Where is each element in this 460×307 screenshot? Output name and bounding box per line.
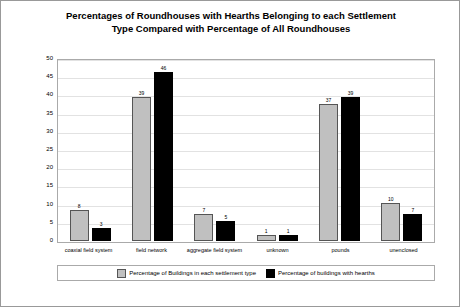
plot-frame: 83394675113739107 [57,59,435,243]
bar: 5 [216,221,235,241]
bar-value-label: 46 [161,65,167,71]
bar-value-label: 8 [78,203,81,209]
x-tick-label: unknown [246,247,309,253]
chart-title-line-1: Percentages of Roundhouses with Hearths … [1,9,460,22]
bar: 46 [154,72,173,241]
bar-value-label: 39 [139,90,145,96]
y-tick-label: 45 [35,73,53,79]
bar: 10 [381,203,400,241]
legend-item-1: Percentage of buildings with hearths [266,269,375,278]
bar: 7 [403,214,422,241]
bar: 7 [194,214,213,241]
y-tick-label: 10 [35,201,53,207]
bar-group: 75 [184,61,246,241]
bar-value-label: 5 [224,214,227,220]
bar-value-label: 7 [202,207,205,213]
chart-title: Percentages of Roundhouses with Hearths … [1,9,460,35]
y-tick-label: 0 [35,237,53,243]
bar: 8 [70,210,89,241]
x-tick-label: pounds [309,247,372,253]
x-tick-label: aggregate field system [183,247,246,253]
y-tick-label: 20 [35,164,53,170]
legend-label-1: Percentage of buildings with hearths [278,270,375,276]
bar-group: 11 [246,61,308,241]
y-tick-label: 5 [35,219,53,225]
bar: 1 [257,235,276,241]
bar-group: 3946 [121,61,183,241]
legend-item-0: Percentage of Buildings in each settleme… [117,269,256,278]
plot-area: 05101520253035404550 83394675113739107 c… [57,59,435,243]
bar: 39 [132,97,151,241]
bar: 39 [341,97,360,241]
bar-value-label: 10 [388,196,394,202]
bar-value-label: 39 [348,90,354,96]
chart-figure: Percentages of Roundhouses with Hearths … [0,0,460,307]
bar: 3 [92,228,111,241]
x-tick-label: unenclosed [372,247,435,253]
bar-value-label: 1 [287,228,290,234]
bar-group: 107 [371,61,433,241]
y-tick-label: 15 [35,182,53,188]
bar-value-label: 7 [411,207,414,213]
bar: 37 [319,104,338,241]
bar: 1 [279,235,298,241]
x-tick-label: coaxial field system [57,247,120,253]
legend-label-0: Percentage of Buildings in each settleme… [129,270,256,276]
chart-legend: Percentage of Buildings in each settleme… [57,265,435,281]
bar-group: 83 [59,61,121,241]
bar-value-label: 37 [326,97,332,103]
y-tick-label: 40 [35,91,53,97]
y-tick-label: 35 [35,110,53,116]
bar-value-label: 1 [265,228,268,234]
bar-value-label: 3 [100,221,103,227]
y-tick-label: 50 [35,55,53,61]
y-tick-label: 25 [35,146,53,152]
bar-group: 3739 [308,61,370,241]
legend-swatch-dark-icon [266,269,275,278]
x-tick-label: field network [120,247,183,253]
bar-groups: 83394675113739107 [59,61,433,241]
chart-title-line-2: Type Compared with Percentage of All Rou… [1,22,460,35]
y-tick-label: 30 [35,128,53,134]
legend-swatch-light-icon [117,269,126,278]
